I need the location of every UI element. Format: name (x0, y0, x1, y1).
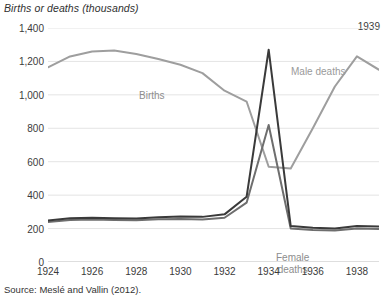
x-tick-label: 1936 (302, 266, 324, 277)
y-tick-label: 1,200 (4, 56, 44, 67)
series-label-births: Births (139, 90, 165, 101)
x-axis-tick-labels: 19241926192819301932193419361938 (0, 266, 386, 282)
x-tick-label: 1938 (346, 266, 368, 277)
chart-figure: Births or deaths (thousands) 1939 020040… (0, 0, 386, 300)
y-tick-label: 1,400 (4, 23, 44, 34)
plot-area: Births Male deaths Female deaths (48, 28, 379, 262)
x-tick-label: 1924 (37, 266, 59, 277)
series-label-male-deaths: Male deaths (291, 66, 345, 77)
y-tick-label: 600 (4, 156, 44, 167)
y-tick-label: 800 (4, 123, 44, 134)
x-tick-label: 1926 (81, 266, 103, 277)
x-tick-label: 1932 (213, 266, 235, 277)
line-chart-svg (48, 28, 379, 262)
source-note: Source: Meslé and Vallin (2012). (4, 284, 141, 295)
y-tick-label: 400 (4, 190, 44, 201)
series-label-female-deaths-line1: Female (276, 252, 309, 264)
y-tick-label: 200 (4, 223, 44, 234)
x-tick-label: 1934 (258, 266, 280, 277)
x-tick-label: 1930 (169, 266, 191, 277)
page-title: Births or deaths (thousands) (4, 2, 139, 14)
x-tick-label: 1928 (125, 266, 147, 277)
gridlines (48, 28, 379, 229)
y-tick-label: 1,000 (4, 89, 44, 100)
